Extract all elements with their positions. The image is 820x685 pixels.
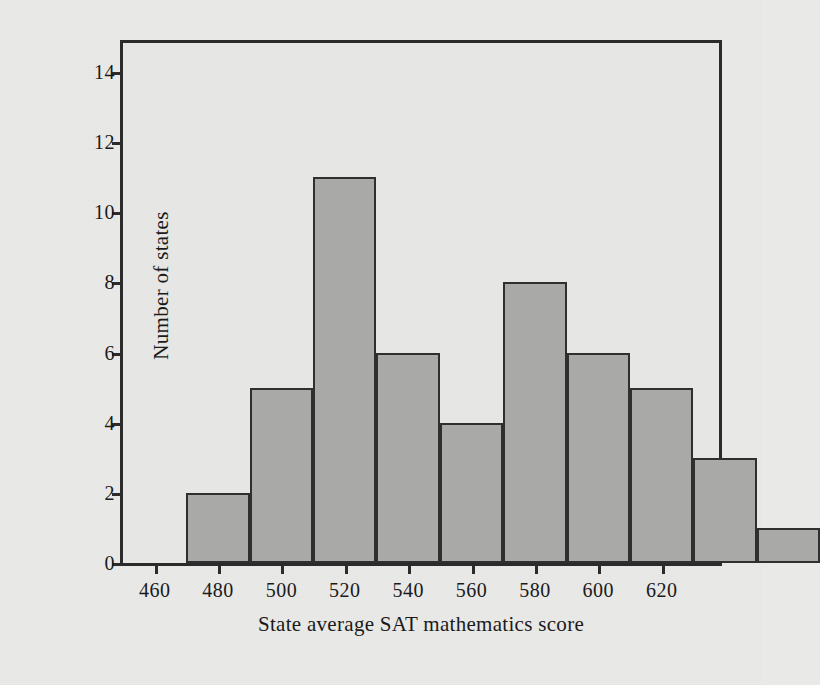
y-tick-label: 6	[105, 341, 116, 364]
histogram-bar	[250, 388, 313, 563]
x-tick-label: 460	[139, 579, 171, 602]
x-tick-label: 500	[266, 579, 298, 602]
x-tick-mark	[535, 563, 538, 574]
y-tick-label: 14	[94, 61, 115, 84]
x-tick-label: 560	[456, 579, 488, 602]
x-tick-label: 620	[646, 579, 678, 602]
y-tick-label: 0	[105, 552, 116, 575]
histogram-bar	[376, 353, 439, 563]
y-tick-label: 8	[105, 271, 116, 294]
x-tick-mark	[408, 563, 411, 574]
histogram-bar	[503, 282, 566, 563]
plot-area	[123, 43, 719, 563]
histogram-bar	[567, 353, 630, 563]
x-tick-label: 540	[392, 579, 424, 602]
histogram-bar	[757, 528, 820, 563]
x-axis-title: State average SAT mathematics score	[120, 612, 722, 637]
histogram-bar	[186, 493, 249, 563]
x-tick-mark	[218, 563, 221, 574]
x-tick-mark	[345, 563, 348, 574]
y-tick-label: 4	[105, 411, 116, 434]
y-tick-label: 10	[94, 201, 115, 224]
x-tick-mark	[662, 563, 665, 574]
x-tick-label: 480	[202, 579, 234, 602]
y-tick-label: 12	[94, 131, 115, 154]
x-tick-mark	[281, 563, 284, 574]
y-tick-label: 2	[105, 481, 116, 504]
x-tick-mark	[472, 563, 475, 574]
x-tick-label: 580	[519, 579, 551, 602]
plot-frame: Number of states 02468101214460480500520…	[120, 40, 722, 566]
x-tick-mark	[155, 563, 158, 574]
y-axis-title: Number of states	[149, 156, 174, 416]
x-tick-label: 600	[583, 579, 615, 602]
histogram-bar	[313, 177, 376, 563]
x-tick-mark	[598, 563, 601, 574]
histogram-bar	[630, 388, 693, 563]
histogram-bar	[440, 423, 503, 563]
x-tick-label: 520	[329, 579, 361, 602]
histogram-bar	[693, 458, 756, 563]
